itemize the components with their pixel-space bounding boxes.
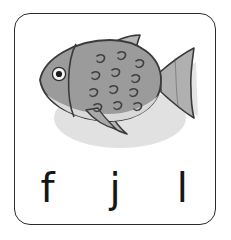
letter-option-f[interactable]: f	[25, 166, 71, 210]
fish-eye	[52, 67, 65, 80]
letter-option-j[interactable]: j	[92, 166, 138, 210]
letter-options-row: f j l	[14, 166, 216, 218]
fish-illustration-area	[14, 20, 216, 160]
letter-option-l[interactable]: l	[159, 166, 205, 210]
flashcard-root: f j l	[0, 0, 231, 240]
fish-illustration	[14, 20, 216, 160]
